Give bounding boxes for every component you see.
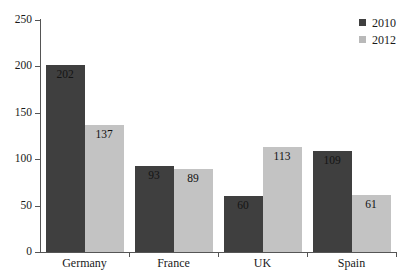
bar-value-label: 137: [85, 129, 124, 141]
legend-swatch-icon-2010: [359, 19, 366, 26]
y-tick-200: [35, 66, 40, 67]
legend-label-2010: 2010: [372, 17, 396, 29]
bar-france-2012: 89: [174, 169, 213, 252]
legend-label-2012: 2012: [372, 34, 396, 46]
x-tick-separator-4: [396, 252, 397, 257]
chart-legend: 2010 2012: [359, 16, 396, 46]
bar-germany-2012: 137: [85, 125, 124, 252]
bar-value-label: 60: [224, 200, 263, 212]
bar-value-label: 202: [46, 69, 85, 81]
bar-value-label: 109: [313, 155, 352, 167]
y-tick-250: [35, 20, 40, 21]
legend-item-2010: 2010: [359, 16, 396, 29]
bar-france-2010: 93: [135, 166, 174, 252]
bar-spain-2012: 61: [352, 195, 391, 252]
x-tick-label-uk: UK: [218, 257, 307, 269]
bar-value-label: 113: [263, 151, 302, 163]
bar-spain-2010: 109: [313, 151, 352, 252]
y-axis-line: [40, 19, 41, 253]
y-tick-label-0: 0: [0, 246, 32, 258]
y-tick-50: [35, 206, 40, 207]
bar-chart-figure: 050100150200250 20213793896011310961 Ger…: [0, 0, 408, 279]
bar-value-label: 61: [352, 199, 391, 211]
bar-value-label: 89: [174, 173, 213, 185]
x-tick-label-germany: Germany: [40, 257, 129, 269]
x-tick-label-spain: Spain: [307, 257, 396, 269]
bar-germany-2010: 202: [46, 65, 85, 252]
y-tick-0: [35, 252, 40, 253]
legend-item-2012: 2012: [359, 33, 396, 46]
y-tick-label-50: 50: [0, 200, 32, 212]
y-tick-label-100: 100: [0, 153, 32, 165]
bar-value-label: 93: [135, 170, 174, 182]
legend-swatch-icon-2012: [359, 36, 366, 43]
x-tick-label-france: France: [129, 257, 218, 269]
y-tick-150: [35, 113, 40, 114]
y-tick-label-150: 150: [0, 107, 32, 119]
y-tick-label-250: 250: [0, 14, 32, 26]
bar-uk-2010: 60: [224, 196, 263, 252]
bar-uk-2012: 113: [263, 147, 302, 252]
y-tick-label-200: 200: [0, 60, 32, 72]
y-tick-100: [35, 159, 40, 160]
